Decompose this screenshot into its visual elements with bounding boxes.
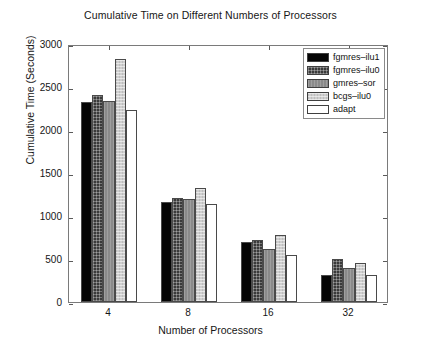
- bar: [115, 59, 126, 302]
- bar: [355, 263, 366, 302]
- bar: [366, 275, 377, 302]
- x-axis-tick-label: 8: [168, 307, 208, 318]
- bar: [321, 275, 332, 302]
- y-axis-tick-label: 1000: [20, 211, 62, 222]
- legend-label: fgmres–ilu0: [333, 65, 380, 75]
- bar: [263, 249, 274, 302]
- y-axis-tick-label: 500: [20, 254, 62, 265]
- y-axis-tick-label: 2000: [20, 125, 62, 136]
- bar: [275, 235, 286, 302]
- legend-item: gmres–sor: [307, 77, 381, 89]
- legend-swatch: [307, 79, 329, 88]
- y-axis-tick-label: 1500: [20, 168, 62, 179]
- legend-item: fgmres–ilu0: [307, 64, 381, 76]
- x-axis-label: Number of Processors: [0, 324, 421, 336]
- legend-swatch: [307, 105, 329, 114]
- bar-group: [241, 46, 297, 302]
- y-axis-tick-label: 2500: [20, 82, 62, 93]
- chart-figure: Cumulative Time on Different Numbers of …: [0, 0, 421, 351]
- bar-group: [161, 46, 217, 302]
- legend-item: fgmres–ilu1: [307, 51, 381, 63]
- bar: [81, 102, 92, 302]
- bar: [126, 110, 137, 302]
- legend-label: bcgs–ilu0: [333, 91, 371, 101]
- bar: [332, 259, 343, 302]
- legend-swatch: [307, 66, 329, 75]
- y-axis-tick-mark: [383, 304, 387, 305]
- x-axis-tick-label: 16: [248, 307, 288, 318]
- y-axis-tick-label: 3000: [20, 39, 62, 50]
- bar: [241, 242, 252, 302]
- bar: [343, 268, 354, 302]
- chart-title: Cumulative Time on Different Numbers of …: [0, 9, 421, 21]
- y-axis-tick-mark: [69, 304, 73, 305]
- bar: [172, 198, 183, 302]
- bar: [92, 95, 103, 302]
- chart-legend: fgmres–ilu1fgmres–ilu0gmres–sorbcgs–ilu0…: [303, 48, 385, 119]
- bar: [206, 204, 217, 302]
- y-axis-tick-label: 0: [20, 297, 62, 308]
- x-axis-tick-label: 32: [328, 307, 368, 318]
- legend-label: gmres–sor: [333, 78, 376, 88]
- bar: [286, 255, 297, 302]
- legend-item: adapt: [307, 103, 381, 115]
- legend-swatch: [307, 53, 329, 62]
- bar: [103, 101, 114, 302]
- legend-label: fgmres–ilu1: [333, 52, 380, 62]
- legend-swatch: [307, 92, 329, 101]
- bar: [195, 188, 206, 302]
- bar: [252, 240, 263, 302]
- bar-group: [81, 46, 137, 302]
- bar: [183, 199, 194, 302]
- legend-label: adapt: [333, 104, 356, 114]
- legend-item: bcgs–ilu0: [307, 90, 381, 102]
- x-axis-tick-label: 4: [88, 307, 128, 318]
- bar: [161, 202, 172, 302]
